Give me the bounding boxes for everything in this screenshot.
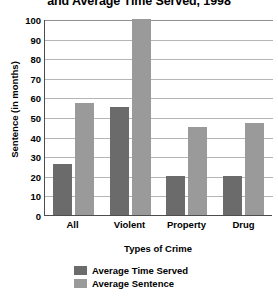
bar-group	[219, 20, 269, 215]
bar-group	[48, 20, 98, 215]
legend-swatch	[74, 279, 87, 288]
x-axis-tick: All	[47, 219, 97, 230]
y-axis-tick: 0	[15, 211, 41, 222]
legend-item: Average Time Served	[74, 265, 204, 276]
y-axis-tick: 100	[15, 15, 41, 26]
legend-label: Average Sentence	[92, 278, 174, 289]
chart-title: and Average Time Served, 1998	[0, 0, 278, 8]
x-axis-label: Types of Crime	[44, 243, 272, 254]
y-axis-tick: 30	[15, 152, 41, 163]
bar-group	[105, 20, 155, 215]
bar	[75, 103, 94, 215]
bar-groups	[45, 20, 272, 215]
y-axis-tick: 20	[15, 171, 41, 182]
x-axis-tick: Property	[161, 219, 211, 230]
bar	[245, 123, 264, 215]
plot-area: 1009080706050403020100	[44, 20, 272, 216]
legend-swatch	[74, 266, 87, 275]
bar-chart: and Average Time Served, 1998 Sentence (…	[0, 0, 278, 302]
y-axis-tick: 90	[15, 34, 41, 45]
y-axis-tick: 70	[15, 73, 41, 84]
x-axis-tick: Violent	[104, 219, 154, 230]
y-axis-tick: 60	[15, 93, 41, 104]
bar	[166, 176, 185, 215]
bar	[188, 127, 207, 215]
bar	[223, 176, 242, 215]
x-axis-tick-labels: AllViolentPropertyDrug	[44, 219, 272, 230]
y-axis-tick: 40	[15, 132, 41, 143]
bar	[53, 164, 72, 215]
x-axis-tick: Drug	[218, 219, 268, 230]
y-axis-tick: 50	[15, 113, 41, 124]
chart-legend: Average Time ServedAverage Sentence	[0, 265, 278, 289]
y-axis-tick: 80	[15, 54, 41, 65]
bar	[132, 19, 151, 215]
legend-item: Average Sentence	[74, 278, 204, 289]
legend-label: Average Time Served	[92, 265, 188, 276]
bar	[110, 107, 129, 215]
y-axis-tick: 10	[15, 191, 41, 202]
bar-group	[162, 20, 212, 215]
